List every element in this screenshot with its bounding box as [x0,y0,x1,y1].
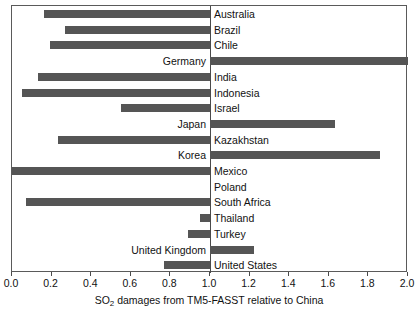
bar-category-label: United States [214,259,277,271]
bar-row: United States [12,257,408,273]
bar [210,57,408,65]
chart-container: AustraliaBrazilChileGermanyIndiaIndonesi… [0,0,418,318]
bar [200,214,210,222]
bar [164,261,210,269]
bar [58,136,210,144]
x-axis-tick-label: 1.0 [195,277,223,289]
bar-row: Indonesia [12,85,408,101]
bar-row: United Kingdom [12,242,408,258]
x-axis-tick [367,272,368,276]
bar-category-label: Turkey [214,228,246,240]
x-axis-tick [328,272,329,276]
bar-category-label: Brazil [214,24,240,36]
bar-row: Poland [12,179,408,195]
x-axis-tick-label: 1.4 [274,277,302,289]
bar [121,104,210,112]
bar-row: Chile [12,37,408,53]
x-axis-tick [90,272,91,276]
bar-category-label: Japan [177,118,206,130]
bar [210,246,254,254]
bar-category-label: Indonesia [214,87,260,99]
bar-category-label: Mexico [214,165,247,177]
x-axis-tick-label: 1.8 [353,277,381,289]
x-axis-tick [407,272,408,276]
bar-category-label: United Kingdom [131,244,206,256]
bar-row: Brazil [12,22,408,38]
bar [50,41,210,49]
bar [65,26,210,34]
x-axis-tick-label: 0.0 [0,277,25,289]
x-axis-tick-label: 1.2 [235,277,263,289]
bar-category-label: Thailand [214,212,254,224]
x-axis-title: SO2 damages from TM5-FASST relative to C… [0,294,418,310]
bar [38,73,210,81]
bar-row: Australia [12,6,408,22]
bar [44,10,210,18]
bar-category-label: India [214,71,237,83]
x-axis-tick-label: 0.6 [116,277,144,289]
bar [26,198,210,206]
x-axis-title-prefix: SO [95,294,110,306]
bar-category-label: Germany [163,55,206,67]
bar [188,230,210,238]
bar-row: Turkey [12,226,408,242]
plot-area: AustraliaBrazilChileGermanyIndiaIndonesi… [11,5,407,272]
x-axis-tick [249,272,250,276]
bar-row: Mexico [12,163,408,179]
bar-row: India [12,69,408,85]
bar-category-label: Poland [214,181,247,193]
bar [210,120,335,128]
x-axis-tick [130,272,131,276]
x-axis-tick-label: 0.4 [76,277,104,289]
bar-row: Thailand [12,210,408,226]
x-axis-tick [209,272,210,276]
x-axis-title-suffix: damages from TM5-FASST relative to China [114,294,323,306]
bar-category-label: Korea [178,149,206,161]
x-axis-tick [11,272,12,276]
bar [22,89,210,97]
bar-category-label: Australia [214,8,255,20]
x-axis-tick [288,272,289,276]
bar-row: South Africa [12,194,408,210]
x-axis-tick-label: 2.0 [393,277,418,289]
bar-row: Germany [12,53,408,69]
x-axis: 0.00.20.40.60.81.01.21.41.61.82.0 SO2 da… [0,272,418,318]
bar-category-label: Chile [214,39,238,51]
x-axis-tick-label: 0.8 [155,277,183,289]
bar-row: Israel [12,100,408,116]
bar [210,151,380,159]
bar-category-label: Israel [214,102,240,114]
bar-row: Kazakhstan [12,132,408,148]
bar-row: Korea [12,147,408,163]
x-axis-tick-label: 1.6 [314,277,342,289]
bar-category-label: Kazakhstan [214,134,269,146]
bar-category-label: South Africa [214,196,271,208]
bar [12,167,210,175]
bar-row: Japan [12,116,408,132]
x-axis-tick-label: 0.2 [37,277,65,289]
x-axis-tick [51,272,52,276]
x-axis-tick [169,272,170,276]
